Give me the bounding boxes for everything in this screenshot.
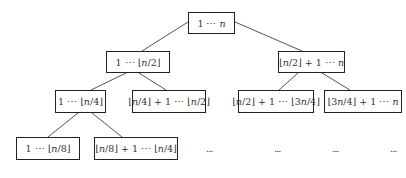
edge-l2-a-to-l3-b: [92, 113, 122, 137]
edge-root-to-l1-left: [142, 22, 188, 51]
tree-node-l1-right: ⌊n/2⌋ + 1 ⋯ n: [278, 51, 345, 73]
tree-node-l2-c: ⌊n/2⌋ + 1 ⋯ ⌊3n/4⌋: [238, 90, 314, 113]
node-label: ⌊n/8⌋ + 1 ⋯ ⌊n/4⌋: [95, 143, 177, 154]
tree-node-l2-d: ⌊3n/4⌋ + 1 ⋯ n: [324, 90, 402, 113]
ellipsis-3: ...: [390, 143, 397, 154]
node-label: 1 ⋯ n: [197, 18, 225, 29]
tree-node-l3-b: ⌊n/8⌋ + 1 ⋯ ⌊n/4⌋: [94, 137, 178, 160]
tree-node-l1-left: 1 ⋯ ⌊n/2⌋: [106, 51, 170, 73]
ellipsis-1: ...: [274, 143, 281, 154]
tree-node-l3-a: 1 ⋯ ⌊n/8⌋: [16, 137, 80, 160]
node-label: 1 ⋯ ⌊n/8⌋: [26, 143, 71, 154]
node-label: ⌊n/4⌋ + 1 ⋯ ⌊n/2⌋: [128, 96, 210, 107]
tree-node-l2-b: ⌊n/4⌋ + 1 ⋯ ⌊n/2⌋: [132, 90, 206, 113]
node-label: 1 ⋯ ⌊n/4⌋: [58, 96, 103, 107]
tree-node-l2-a: 1 ⋯ ⌊n/4⌋: [55, 90, 106, 113]
edge-l1-right-to-l2-c: [279, 73, 298, 90]
ellipsis-0: ...: [206, 143, 213, 154]
node-label: ⌊3n/4⌋ + 1 ⋯ n: [327, 96, 398, 107]
ellipsis-2: ...: [332, 143, 339, 154]
node-label: ⌊n/2⌋ + 1 ⋯ n: [279, 57, 344, 68]
tree-node-root: 1 ⋯ n: [188, 12, 235, 34]
node-label: 1 ⋯ ⌊n/2⌋: [116, 57, 161, 68]
edge-l1-left-to-l2-b: [139, 73, 166, 90]
edge-l1-right-to-l2-d: [322, 73, 350, 90]
edge-l2-a-to-l3-a: [48, 113, 78, 137]
edge-root-to-l1-right: [235, 22, 302, 51]
edge-l1-left-to-l2-a: [91, 73, 126, 90]
node-label: ⌊n/2⌋ + 1 ⋯ ⌊3n/4⌋: [232, 96, 320, 107]
